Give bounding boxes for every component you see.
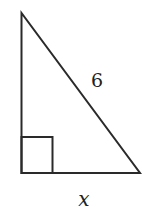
right-angle-marker	[22, 137, 53, 173]
triangle-outline	[22, 13, 141, 173]
right-triangle-diagram: 6 x	[0, 0, 142, 217]
hypotenuse-label: 6	[91, 69, 103, 91]
base-label: x	[78, 187, 89, 211]
